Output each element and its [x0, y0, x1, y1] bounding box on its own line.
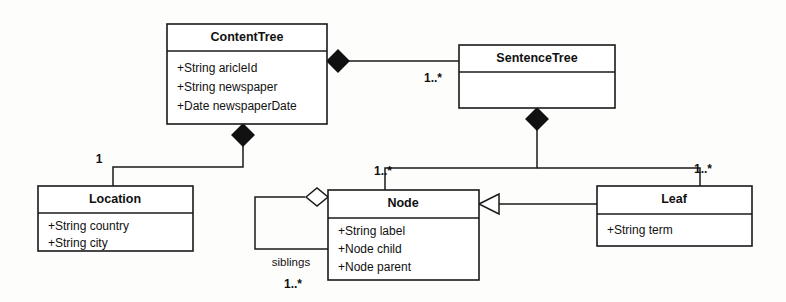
- multiplicity-contenttree-sentencetree: 1..*: [424, 71, 442, 85]
- multiplicity-node-siblings: 1..*: [284, 277, 302, 291]
- connector-line: [113, 139, 243, 186]
- multiplicity-contenttree-location: 1: [96, 152, 103, 166]
- composition-diamond-filled: [232, 124, 254, 146]
- relationship-sentencetree-children: 1..* 1..*: [374, 108, 712, 190]
- relationship-contenttree-location: 1: [96, 124, 254, 186]
- class-attribute: +Date newspaperDate: [177, 99, 297, 113]
- class-box-contenttree[interactable]: ContentTree +String aricleId +String new…: [167, 24, 327, 124]
- class-box-node[interactable]: Node +String label +Node child +Node par…: [328, 190, 479, 280]
- class-box-location[interactable]: Location +String country +String city: [38, 186, 193, 251]
- class-attribute: +String term: [607, 223, 673, 237]
- class-attribute: +String city: [48, 236, 108, 250]
- class-attribute: +String country: [48, 219, 129, 233]
- class-name-contenttree: ContentTree: [211, 30, 284, 44]
- relationship-node-siblings: siblings 1..*: [255, 188, 328, 291]
- class-attribute: +String aricleId: [177, 61, 257, 75]
- multiplicity-sentencetree-leaf: 1..*: [694, 162, 712, 176]
- class-attribute: +String newspaper: [177, 80, 277, 94]
- class-attribute: +Node child: [338, 242, 402, 256]
- class-name-node: Node: [387, 196, 418, 210]
- class-name-sentencetree: SentenceTree: [496, 51, 577, 65]
- class-box-leaf[interactable]: Leaf +String term: [597, 186, 752, 246]
- class-name-leaf: Leaf: [661, 192, 688, 206]
- composition-diamond-filled: [526, 108, 548, 130]
- relationship-contenttree-sentencetree: 1..*: [327, 50, 459, 85]
- connector-line-leaf: [537, 168, 700, 186]
- composition-diamond-filled: [327, 50, 349, 72]
- relationship-leaf-node-generalization: [479, 194, 597, 214]
- aggregation-diamond-hollow: [306, 188, 328, 206]
- diagram-canvas: 1..* 1 1..* 1..* siblings 1..*: [0, 0, 786, 302]
- class-box-sentencetree[interactable]: SentenceTree: [459, 45, 615, 108]
- multiplicity-sentencetree-node: 1..*: [374, 164, 392, 178]
- class-attribute: +Node parent: [338, 260, 412, 274]
- role-label-siblings: siblings: [272, 256, 311, 268]
- class-name-location: Location: [89, 192, 141, 206]
- connector-line-node: [385, 123, 537, 190]
- uml-class-diagram: 1..* 1 1..* 1..* siblings 1..*: [0, 0, 786, 302]
- class-attribute: +String label: [338, 224, 405, 238]
- generalization-arrow-hollow: [479, 194, 499, 214]
